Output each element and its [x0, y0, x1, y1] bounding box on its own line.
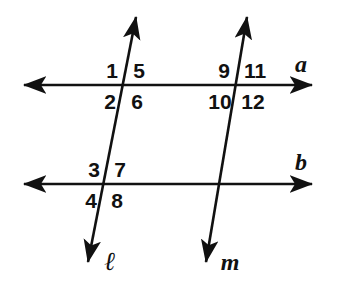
angle-label-9: 9	[218, 60, 230, 81]
line-label-m: m	[221, 250, 240, 274]
transversal-line-l	[88, 17, 136, 262]
angle-label-7: 7	[114, 159, 126, 180]
line-label-b: b	[295, 150, 307, 174]
angle-label-2: 2	[104, 91, 116, 112]
angle-label-1: 1	[106, 60, 118, 81]
geometry-canvas	[0, 0, 346, 287]
geometry-figure: 1 5 2 6 9 11 10 12 3 7 4 8 a b ℓ m	[0, 0, 346, 287]
line-label-l: ℓ	[104, 249, 115, 275]
angle-label-11: 11	[244, 60, 266, 81]
angle-label-3: 3	[88, 159, 100, 180]
angle-label-5: 5	[133, 60, 145, 81]
line-label-a: a	[295, 52, 307, 76]
angle-label-4: 4	[85, 190, 97, 211]
angle-label-6: 6	[131, 91, 143, 112]
angle-label-8: 8	[111, 190, 123, 211]
angle-label-12: 12	[241, 91, 264, 112]
transversal-line-m	[206, 17, 247, 262]
angle-label-10: 10	[208, 91, 231, 112]
